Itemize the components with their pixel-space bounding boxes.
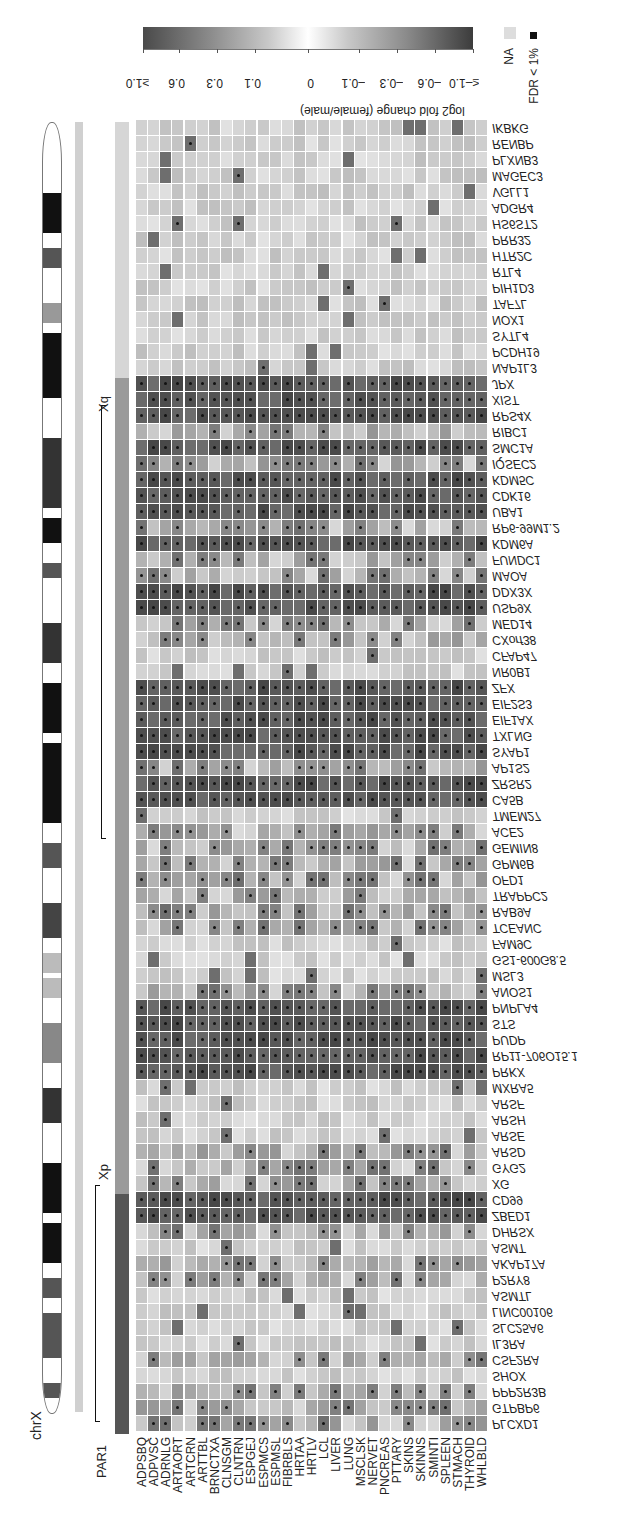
heatmap-cell — [367, 904, 378, 919]
fdr-dot-icon — [286, 1198, 289, 1201]
heatmap-cell — [258, 488, 269, 503]
heatmap-cell — [415, 728, 426, 743]
heatmap-cell — [172, 1048, 183, 1063]
heatmap-cell — [415, 264, 426, 279]
heatmap-cell — [428, 664, 439, 679]
heatmap-cell — [245, 1192, 256, 1207]
heatmap-cell — [367, 920, 378, 935]
heatmap-cell — [197, 520, 208, 535]
heatmap-cell — [185, 680, 196, 695]
heatmap-cell — [136, 1032, 147, 1047]
heatmap-cell — [136, 1400, 147, 1415]
fdr-dot-icon — [444, 718, 447, 721]
fdr-dot-icon — [359, 1070, 362, 1073]
heatmap-cell — [318, 168, 329, 183]
heatmap-cell — [209, 920, 220, 935]
heatmap-cell — [452, 1416, 463, 1431]
fdr-dot-icon — [140, 478, 143, 481]
heatmap-cell — [245, 952, 256, 967]
fdr-dot-icon — [419, 702, 422, 705]
heatmap-cell — [185, 568, 196, 583]
gene-label: OFD1 — [492, 872, 524, 888]
heatmap-cell — [172, 1064, 183, 1079]
heatmap-cell — [245, 760, 256, 775]
heatmap-cell — [379, 488, 390, 503]
heatmap-cell — [172, 264, 183, 279]
fdr-dot-icon — [456, 862, 459, 865]
heatmap-cell — [136, 200, 147, 215]
fdr-dot-icon — [347, 414, 350, 417]
heatmap-cell — [233, 168, 244, 183]
fdr-dot-icon — [444, 1406, 447, 1409]
heatmap-cell — [233, 888, 244, 903]
heatmap-cell — [318, 360, 329, 375]
heatmap-cell — [172, 1400, 183, 1415]
fdr-dot-icon — [444, 1198, 447, 1201]
heatmap-cell — [379, 424, 390, 439]
heatmap-cell — [415, 1400, 426, 1415]
heatmap-cell — [367, 680, 378, 695]
gene-label: MED14 — [492, 616, 532, 632]
heatmap-cell — [172, 648, 183, 663]
heatmap-cell — [160, 376, 171, 391]
heatmap-cell — [464, 248, 475, 263]
fdr-dot-icon — [334, 1006, 337, 1009]
heatmap-cell — [160, 568, 171, 583]
fdr-dot-icon — [140, 590, 143, 593]
heatmap-cell — [270, 248, 281, 263]
heatmap-cell — [197, 424, 208, 439]
heatmap-cell — [258, 248, 269, 263]
heatmap-cell — [233, 872, 244, 887]
heatmap-cell — [391, 888, 402, 903]
heatmap-cell — [306, 1208, 317, 1223]
fdr-dot-icon — [262, 782, 265, 785]
heatmap-cell — [415, 856, 426, 871]
heatmap-cell — [233, 808, 244, 823]
fdr-dot-icon — [213, 558, 216, 561]
heatmap-cell — [282, 1368, 293, 1383]
heatmap-cell — [233, 1016, 244, 1031]
heatmap-cell — [136, 1160, 147, 1175]
heatmap-cell — [160, 1144, 171, 1159]
heatmap-cell — [270, 232, 281, 247]
fdr-dot-icon — [201, 494, 204, 497]
fdr-dot-icon — [383, 478, 386, 481]
heatmap-cell — [282, 696, 293, 711]
heatmap-cell — [440, 968, 451, 983]
fdr-dot-icon — [407, 1054, 410, 1057]
heatmap-cell — [233, 1336, 244, 1351]
heatmap-cell — [185, 200, 196, 215]
heatmap-cell — [379, 1016, 390, 1031]
heatmap-cell — [245, 712, 256, 727]
heatmap-cell — [318, 712, 329, 727]
heatmap-cell — [403, 632, 414, 647]
heatmap-cell — [270, 952, 281, 967]
fdr-dot-icon — [456, 414, 459, 417]
heatmap-cell — [355, 1416, 366, 1431]
heatmap-cell — [197, 840, 208, 855]
fdr-dot-icon — [419, 494, 422, 497]
fdr-dot-icon — [383, 446, 386, 449]
heatmap-cell — [343, 1288, 354, 1303]
gene-label: PLXNB3 — [492, 152, 538, 168]
heatmap-cell — [476, 952, 487, 967]
heatmap-cell — [355, 152, 366, 167]
heatmap-cell — [391, 776, 402, 791]
heatmap-cell — [282, 1064, 293, 1079]
fdr-dot-icon — [371, 1214, 374, 1217]
heatmap-cell — [428, 472, 439, 487]
heatmap-cell — [258, 792, 269, 807]
heatmap-cell — [306, 744, 317, 759]
heatmap-cell — [452, 824, 463, 839]
heatmap-cell — [233, 280, 244, 295]
fdr-dot-icon — [395, 862, 398, 865]
heatmap-cell — [476, 1192, 487, 1207]
fdr-dot-icon — [480, 846, 483, 849]
fdr-dot-icon — [432, 686, 435, 689]
heatmap-cell — [355, 584, 366, 599]
fdr-dot-icon — [298, 1070, 301, 1073]
heatmap-cell — [233, 392, 244, 407]
fdr-dot-icon — [383, 398, 386, 401]
heatmap-cell — [330, 424, 341, 439]
heatmap-cell — [197, 328, 208, 343]
